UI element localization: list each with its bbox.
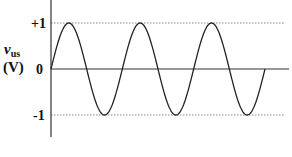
ylabel-unit: (V) (3, 59, 24, 76)
ylabel: vus (4, 41, 20, 59)
sine-wave-chart: +1 0 -1 vus (V) (0, 0, 292, 157)
ylabel-subscript: us (11, 48, 21, 59)
ytick-minus-one: -1 (33, 108, 45, 123)
ytick-plus-one: +1 (31, 16, 46, 31)
ytick-zero: 0 (36, 62, 43, 77)
